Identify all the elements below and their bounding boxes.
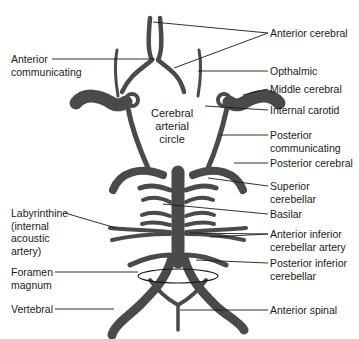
label-posterior-inferior-cerebellar: Posterior inferior cerebellar [270, 257, 347, 282]
label-anterior-communicating: Anterior communicating [11, 53, 82, 78]
label-superior-cerebellar: Superior cerebellar [270, 180, 316, 205]
label-posterior-communicating: Posterior communicating [270, 129, 341, 154]
label-posterior-cerebral: Posterior cerebral [270, 157, 353, 170]
label-foramen-magnum: Foramen magnum [11, 266, 53, 291]
label-internal-carotid: Internal carotid [270, 104, 339, 117]
label-anterior-spinal: Anterior spinal [270, 304, 337, 317]
label-vertebral: Vertebral [11, 303, 53, 316]
label-anterior-inferior-cerebellar: Anterior inferior cerebellar artery [270, 228, 346, 253]
label-anterior-cerebral: Anterior cerebral [270, 27, 348, 40]
label-labyrinthine: Labyrinthine (internal acoustic artery) [11, 207, 68, 257]
cerebral-arterial-circle-diagram: Cerebral arterial circle Anterior commun… [0, 0, 359, 339]
artery-illustration [0, 0, 359, 339]
center-label-cerebral-arterial-circle: Cerebral arterial circle [151, 107, 193, 146]
label-basilar: Basilar [270, 208, 302, 221]
label-middle-cerebral: Middle cerebral [270, 83, 342, 96]
label-opthalmic: Opthalmic [270, 65, 317, 78]
